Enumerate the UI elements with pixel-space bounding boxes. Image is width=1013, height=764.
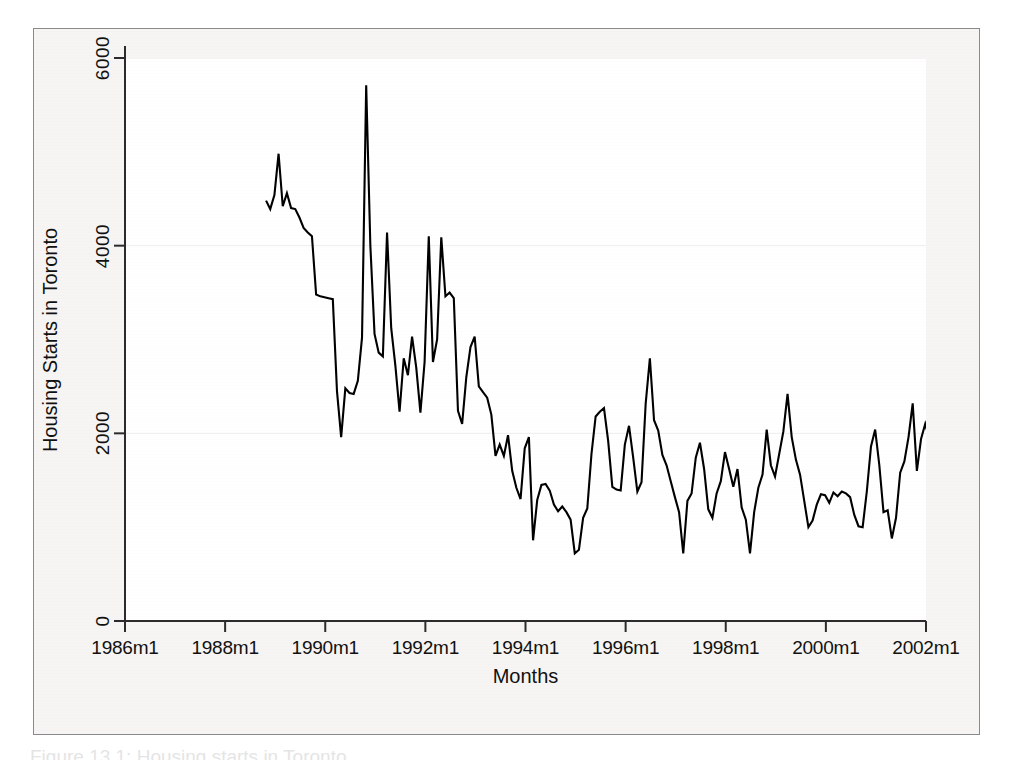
- gridlines: [125, 58, 926, 433]
- y-tick-label-2000: 2000: [92, 398, 114, 468]
- x-tick-label-2000m1: 2000m1: [771, 637, 881, 659]
- plot-area: [125, 58, 926, 621]
- x-tick-label-1988m1: 1988m1: [170, 637, 280, 659]
- y-axis-title: Housing Starts in Toronto: [37, 175, 63, 505]
- x-axis-title: Months: [376, 665, 676, 688]
- x-tick-label-1986m1: 1986m1: [70, 637, 180, 659]
- figure-frame: Housing Starts in Toronto 0200040006000 …: [33, 28, 980, 735]
- x-tick-label-1992m1: 1992m1: [370, 637, 480, 659]
- figure-root: Housing Starts in Toronto 0200040006000 …: [0, 0, 1013, 764]
- y-tick-label-4000: 4000: [92, 211, 114, 281]
- x-tick-label-1994m1: 1994m1: [471, 637, 581, 659]
- series-line-housing-starts: [266, 85, 926, 553]
- x-tick-label-1998m1: 1998m1: [671, 637, 781, 659]
- line-chart-svg: [125, 58, 926, 621]
- page-caption: Figure 13.1: Housing starts in Toronto: [30, 746, 347, 760]
- x-tick-label-1990m1: 1990m1: [270, 637, 380, 659]
- x-tick-label-1996m1: 1996m1: [571, 637, 681, 659]
- y-tick-label-6000: 6000: [92, 23, 114, 93]
- x-tick-label-2002m1: 2002m1: [871, 637, 981, 659]
